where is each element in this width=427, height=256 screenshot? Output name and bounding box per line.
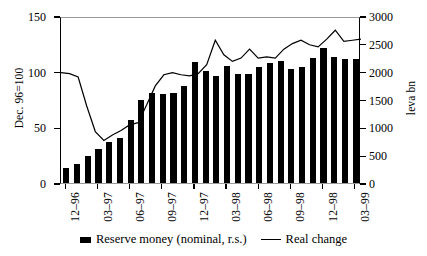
chart-figure: Dec. 96=100 leva bn 05010015005001000150…: [0, 0, 427, 256]
x-tick-4: [193, 184, 194, 189]
y-tick-right-2500: [360, 44, 366, 45]
chart-legend: Reserve money (nominal, r.s.) Real chang…: [0, 232, 427, 247]
x-tick-1: [97, 184, 98, 189]
x-tick-label-12-98: 12–98: [328, 192, 340, 222]
y-tick-left-50: [54, 128, 60, 129]
y-tick-label-right-1000: 1000: [369, 122, 393, 134]
x-tick-label-12-96: 12–96: [70, 192, 82, 222]
y-axis-left-title: Dec. 96=100: [13, 53, 25, 143]
y-tick-label-left-150: 150: [28, 11, 46, 23]
real-change-line: [61, 30, 361, 140]
plot-area: [60, 17, 360, 184]
y-tick-label-left-100: 100: [28, 67, 46, 79]
y-tick-label-right-2500: 2500: [369, 39, 393, 51]
y-tick-right-2000: [360, 72, 366, 73]
x-tick-6: [258, 184, 259, 189]
legend-label-reserve-money: Reserve money (nominal, r.s.): [96, 232, 247, 247]
x-tick-3: [161, 184, 162, 189]
x-tick-8: [322, 184, 323, 189]
x-tick-label-12-97: 12–97: [199, 192, 211, 222]
y-tick-left-150: [54, 16, 60, 17]
y-tick-left-0: [54, 183, 60, 184]
plot-inner: [61, 18, 359, 183]
x-tick-0: [65, 184, 66, 189]
y-tick-label-right-500: 500: [369, 150, 387, 162]
y-tick-label-right-2000: 2000: [369, 67, 393, 79]
x-tick-5: [225, 184, 226, 189]
y-tick-label-right-1500: 1500: [369, 95, 393, 107]
x-tick-label-09-97: 09–97: [167, 192, 179, 222]
legend-item-real-change: Real change: [261, 232, 347, 247]
x-tick-7: [290, 184, 291, 189]
y-tick-label-left-0: 0: [40, 178, 46, 190]
x-tick-label-06-98: 06–98: [263, 192, 275, 222]
x-tick-label-06-97: 06–97: [135, 192, 147, 222]
y-tick-right-3000: [360, 16, 366, 17]
y-tick-right-1500: [360, 100, 366, 101]
x-tick-label-09-98: 09–98: [295, 192, 307, 222]
y-axis-right-title: leva bn: [405, 53, 417, 143]
x-tick-label-03-97: 03–97: [103, 192, 115, 222]
x-tick-9: [354, 184, 355, 189]
x-tick-label-03-98: 03–98: [231, 192, 243, 222]
line-series-layer: [61, 18, 361, 185]
y-tick-right-1000: [360, 128, 366, 129]
y-tick-left-100: [54, 72, 60, 73]
x-tick-2: [129, 184, 130, 189]
bar-swatch-icon: [80, 237, 91, 243]
y-tick-label-right-3000: 3000: [369, 11, 393, 23]
line-swatch-icon: [261, 239, 281, 240]
y-tick-right-500: [360, 156, 366, 157]
x-tick-label-03-99: 03–99: [360, 192, 372, 222]
legend-item-reserve-money: Reserve money (nominal, r.s.): [80, 232, 247, 247]
y-tick-label-right-0: 0: [369, 178, 375, 190]
y-tick-label-left-50: 50: [34, 122, 46, 134]
legend-label-real-change: Real change: [286, 232, 347, 247]
y-tick-right-0: [360, 183, 366, 184]
